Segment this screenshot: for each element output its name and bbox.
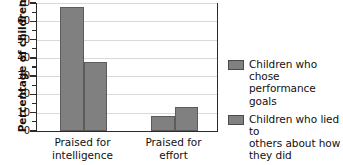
legend-label-2: Children who lied toothers about howthey… (249, 113, 343, 162)
legend-label-line: Children who chose (249, 58, 343, 82)
x-category-label-line: Praised for (119, 136, 229, 149)
x-category-label-2: Praised foreffort (119, 136, 229, 161)
y-tick-label-70: 70 (6, 0, 30, 8)
legend-swatch-icon-1 (228, 60, 244, 70)
y-tick-label-40: 40 (6, 53, 30, 63)
legend-item-2: Children who lied toothers about howthey… (228, 113, 343, 162)
bar-1-2 (84, 62, 108, 131)
cropped-title-artifact (228, 0, 340, 6)
y-tick-label-10: 10 (6, 108, 30, 118)
legend-label-1: Children who choseperformance goals (249, 58, 343, 107)
legend-swatch-icon-2 (228, 115, 244, 125)
legend-label-line: performance goals (249, 82, 343, 106)
y-tick-label-20: 20 (6, 89, 30, 99)
y-tick-label-50: 50 (6, 35, 30, 45)
x-category-label-line: effort (119, 149, 229, 162)
gridline-70 (37, 3, 217, 4)
bar-2-1 (151, 116, 175, 131)
legend-item-1: Children who choseperformance goals (228, 58, 343, 107)
y-tick-label-30: 30 (6, 71, 30, 81)
y-tick-label-0: 0 (6, 126, 30, 136)
legend-label-line: Children who lied to (249, 113, 343, 137)
bar-1-1 (60, 7, 84, 131)
legend-label-line: others about how (249, 137, 343, 149)
plot-area (36, 3, 218, 132)
legend-label-line: they did (249, 149, 343, 161)
legend: Children who choseperformance goalsChild… (228, 58, 343, 165)
bar-2-2 (175, 107, 199, 131)
y-tick-label-60: 60 (6, 16, 30, 26)
bar-chart-figure: Percentage of children 010203040506070 P… (0, 0, 343, 165)
